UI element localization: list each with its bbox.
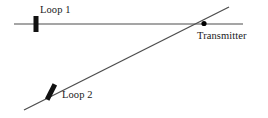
- diagram-canvas: [0, 0, 268, 118]
- loop-2-label: Loop 2: [62, 90, 93, 101]
- loop-1-antenna-marker: [34, 16, 39, 32]
- loop-2-bearing-line: [24, 7, 229, 110]
- transmitter-point: [201, 21, 206, 26]
- loop-2-antenna-marker: [45, 83, 57, 100]
- transmitter-label: Transmitter: [197, 31, 247, 42]
- loop-1-label: Loop 1: [40, 5, 71, 16]
- bearing-diagram: Loop 1 Loop 2 Transmitter: [0, 0, 268, 118]
